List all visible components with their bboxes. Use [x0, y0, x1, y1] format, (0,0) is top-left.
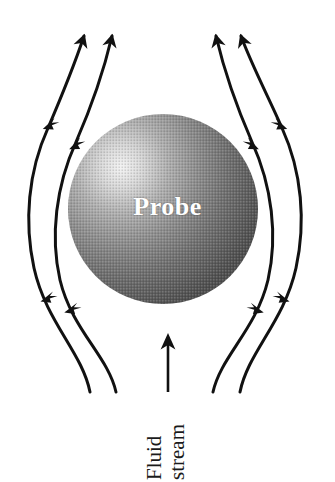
probe-sphere	[68, 114, 258, 304]
caption-line-fluid: Fluid	[144, 436, 166, 480]
fluid-flow-figure: Probe Fluid stream	[0, 0, 335, 482]
caption-line-stream: stream	[167, 424, 189, 480]
streamline-right-inner-arrowhead-lower	[246, 302, 264, 314]
streamline-left-inner-arrowhead-lower	[64, 302, 82, 314]
fluid-stream-caption: Fluid stream	[118, 384, 228, 480]
